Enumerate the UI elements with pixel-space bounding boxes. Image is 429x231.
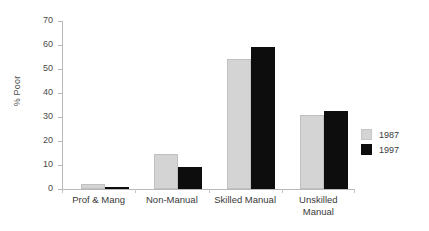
plot-area: 010203040506070	[62, 21, 355, 189]
y-tick-label: 0	[48, 183, 53, 193]
y-tick-label: 30	[43, 111, 53, 121]
bar-1987	[81, 184, 105, 189]
legend-label: 1997	[379, 145, 399, 155]
y-tick-label: 50	[43, 63, 53, 73]
bar-group	[154, 21, 202, 189]
y-tick: 40	[58, 93, 62, 94]
bar-1987	[300, 115, 324, 189]
bar-1987	[154, 154, 178, 189]
y-axis-title: % Poor	[12, 61, 22, 121]
bar-1997	[324, 111, 348, 189]
legend-item-1987: 1987	[361, 128, 399, 141]
bar-1997	[178, 167, 202, 189]
category-label: Prof & Mang	[62, 194, 135, 206]
y-axis-line	[62, 21, 63, 189]
y-tick-label: 20	[43, 135, 53, 145]
bar-1997	[105, 187, 129, 189]
bar-group	[81, 21, 129, 189]
y-tick-label: 70	[43, 15, 53, 25]
y-tick-label: 40	[43, 87, 53, 97]
y-tick: 60	[58, 45, 62, 46]
black-swatch-icon	[361, 144, 372, 155]
legend: 1987 1997	[361, 128, 399, 158]
y-tick: 10	[58, 165, 62, 166]
bar-1997	[251, 47, 275, 189]
y-tick-label: 10	[43, 159, 53, 169]
x-tick	[135, 189, 136, 193]
x-tick	[282, 189, 283, 193]
x-tick	[62, 189, 63, 193]
y-tick: 70	[58, 21, 62, 22]
legend-item-1997: 1997	[361, 143, 399, 156]
y-tick-label: 60	[43, 39, 53, 49]
y-tick: 50	[58, 69, 62, 70]
x-tick	[354, 189, 355, 193]
y-tick: 30	[58, 117, 62, 118]
bar-group	[227, 21, 275, 189]
legend-label: 1987	[379, 130, 399, 140]
y-tick: 20	[58, 141, 62, 142]
category-label: Skilled Manual	[209, 194, 282, 206]
bar-1987	[227, 59, 251, 189]
bar-group	[300, 21, 348, 189]
x-tick	[209, 189, 210, 193]
category-label: Non-Manual	[135, 194, 208, 206]
light-gray-swatch-icon	[361, 129, 372, 140]
category-label: Unskilled Manual	[282, 194, 355, 218]
bar-chart: % Poor 010203040506070 Prof & MangNon-Ma…	[0, 0, 429, 231]
